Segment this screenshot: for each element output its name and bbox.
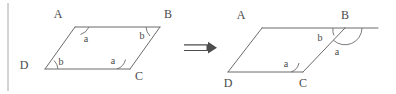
right-vertex-label-b: B bbox=[341, 8, 349, 22]
right-vertex-label-d: D bbox=[224, 76, 233, 90]
left-vertex-label-d: D bbox=[20, 58, 29, 72]
left-angle-arc-b-at-d bbox=[54, 61, 58, 70]
double-right-arrow-icon bbox=[184, 42, 217, 54]
right-parallelogram-group: A B C D b a a bbox=[224, 8, 378, 90]
right-angle-arc-a-at-c bbox=[291, 63, 299, 72]
right-angle-label-b-at-b: b bbox=[318, 32, 323, 43]
left-vertex-label-c: C bbox=[135, 69, 143, 83]
left-angle-label-a-at-c: a bbox=[111, 55, 116, 66]
right-angle-arc-b-at-b bbox=[333, 28, 334, 35]
left-angle-arc-b-at-b bbox=[146, 27, 150, 36]
right-side-da bbox=[228, 28, 262, 72]
left-angle-label-a-at-a: a bbox=[84, 33, 89, 44]
left-angle-label-b-at-b: b bbox=[140, 30, 145, 41]
left-parallelogram-group: A B C D a b a b bbox=[20, 7, 172, 83]
left-angle-arc-a-at-c bbox=[117, 60, 126, 70]
geometry-figure: A B C D a b a b bbox=[0, 0, 396, 94]
left-vertex-label-b: B bbox=[164, 7, 172, 21]
left-vertex-label-a: A bbox=[54, 7, 63, 21]
right-angle-label-a-at-c: a bbox=[284, 58, 289, 69]
left-angle-label-b-at-d: b bbox=[59, 56, 64, 67]
left-side-bc bbox=[130, 27, 160, 69]
right-vertex-label-a: A bbox=[237, 8, 246, 22]
right-vertex-label-c: C bbox=[299, 76, 307, 90]
right-angle-arc-a-at-b bbox=[334, 28, 363, 45]
right-angle-label-a-at-b: a bbox=[335, 46, 340, 57]
geometry-diagram-canvas: A B C D a b a b bbox=[0, 0, 396, 94]
